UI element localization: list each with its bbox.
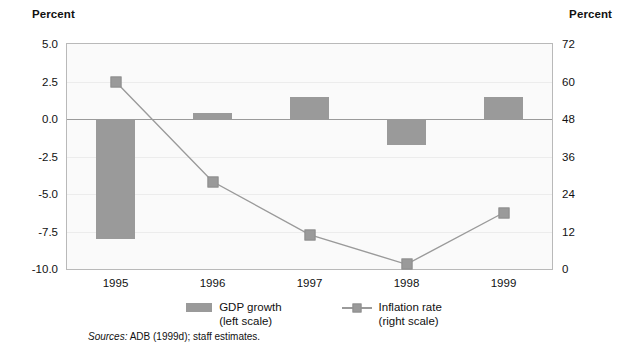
legend-item-gdp-growth: GDP growth (left scale) <box>186 300 281 329</box>
data-point-marker <box>401 259 412 270</box>
left-axis-caption: Percent <box>32 8 75 20</box>
bar-swatch-icon <box>186 303 212 312</box>
left-tick-label: -2.5 <box>10 151 58 163</box>
chart-legend: GDP growth (left scale) Inflation rate (… <box>0 300 628 329</box>
x-tick-label: 1997 <box>270 277 350 289</box>
legend-inflation-line1: Inflation rate <box>379 301 442 313</box>
left-tick-label: 5.0 <box>10 38 58 50</box>
source-text: ADB (1999d); staff estimates. <box>130 331 260 342</box>
right-tick-label: 60 <box>562 76 602 88</box>
right-tick-label: 72 <box>562 38 602 50</box>
right-tick-label: 0 <box>562 263 602 275</box>
x-tick-label: 1998 <box>367 277 447 289</box>
legend-item-inflation-rate: Inflation rate (right scale) <box>342 300 442 329</box>
right-tick-label: 48 <box>562 113 602 125</box>
data-point-marker <box>304 229 315 240</box>
data-point-marker <box>110 76 121 87</box>
left-tick-label: -7.5 <box>10 226 58 238</box>
left-tick-label: 2.5 <box>10 76 58 88</box>
right-axis-caption: Percent <box>569 8 612 20</box>
right-tick-label: 24 <box>562 188 602 200</box>
left-tick-label: 0.0 <box>10 113 58 125</box>
data-point-marker <box>207 176 218 187</box>
source-note: Sources: ADB (1999d); staff estimates. <box>88 331 260 342</box>
legend-inflation-line2: (right scale) <box>379 315 439 327</box>
right-tick-label: 36 <box>562 151 602 163</box>
x-tick-label: 1999 <box>464 277 544 289</box>
line-swatch-icon <box>342 302 372 313</box>
legend-gdp-line1: GDP growth <box>219 301 281 313</box>
data-point-marker <box>498 207 509 218</box>
legend-label-gdp-growth: GDP growth (left scale) <box>219 300 281 329</box>
right-tick-label: 12 <box>562 226 602 238</box>
x-tick-label: 1996 <box>173 277 253 289</box>
x-tick-label: 1995 <box>76 277 156 289</box>
left-tick-label: -10.0 <box>10 263 58 275</box>
plot-area <box>66 43 553 270</box>
legend-label-inflation-rate: Inflation rate (right scale) <box>379 300 442 329</box>
source-label: Sources: <box>88 331 127 342</box>
left-tick-label: -5.0 <box>10 188 58 200</box>
legend-gdp-line2: (left scale) <box>219 315 272 327</box>
